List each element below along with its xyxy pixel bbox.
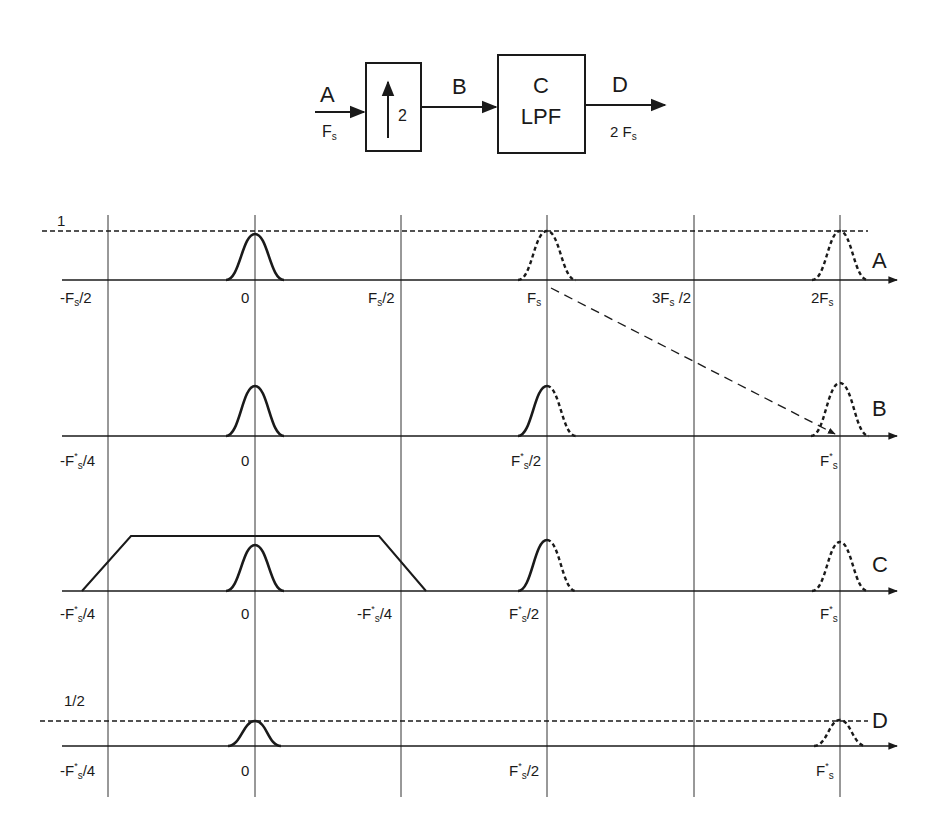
- amplitude-one-label: 1: [57, 212, 65, 229]
- tick-c-2: -F*s/4: [357, 604, 392, 624]
- tick-c-4: F*s: [820, 604, 838, 624]
- tick-b-1: 0: [241, 452, 249, 469]
- tick-d-1: 0: [241, 762, 249, 779]
- block-diagram: A Fs 2 B C LPF D 2 Fs: [315, 55, 665, 153]
- axis-c-label: C: [872, 552, 888, 577]
- tick-b-3: F*s: [820, 451, 838, 471]
- mid-label: B: [452, 74, 467, 99]
- tick-d-0: -F*s/4: [60, 761, 95, 781]
- axis-b-label: B: [872, 396, 887, 421]
- half-lobe-dashed: [547, 386, 576, 436]
- tick-a-0: -Fs/2: [60, 289, 92, 308]
- tick-c-3: F*s/2: [509, 604, 539, 624]
- tick-c-1: 0: [241, 605, 249, 622]
- tick-a-4: 3Fs /2: [652, 289, 691, 308]
- upsampling-spectrum-diagram: A Fs 2 B C LPF D 2 Fs 1 A: [0, 0, 936, 827]
- half-lobe-solid: [518, 540, 547, 591]
- output-label: D: [612, 72, 628, 97]
- tick-a-2: Fs/2: [368, 289, 395, 308]
- tick-a-5: 2Fs: [811, 289, 834, 308]
- half-lobe-dashed: [547, 540, 576, 591]
- tick-c-0: -F*s/4: [60, 604, 95, 624]
- tick-a-1: 0: [241, 289, 249, 306]
- input-rate: Fs: [322, 123, 337, 142]
- half-lobe-solid: [518, 386, 547, 436]
- filter-letter: C: [533, 73, 549, 98]
- upsampler-factor: 2: [398, 107, 407, 124]
- upsampler-box: [366, 63, 421, 151]
- spectrum-row-b: B -F*s/4 0 F*s/2 F*s: [60, 383, 897, 471]
- relabel-arrow: [551, 288, 835, 434]
- tick-a-3: Fs: [527, 289, 541, 308]
- tick-d-2: F*s/2: [509, 761, 539, 781]
- tick-b-2: F*s/2: [511, 451, 541, 471]
- spectrum-row-a: 1 A -Fs/2 0 Fs/2 Fs 3Fs /2 2Fs: [42, 212, 897, 308]
- filter-label: LPF: [521, 104, 561, 129]
- axis-a-label: A: [872, 248, 887, 273]
- tick-d-3: F*s: [816, 761, 834, 781]
- spectrum-row-c: C -F*s/4 0 -F*s/4 F*s/2 F*s: [60, 536, 897, 624]
- axis-d-label: D: [872, 708, 888, 733]
- spectrum-row-d: 1/2 D -F*s/4 0 F*s/2 F*s: [40, 692, 897, 781]
- frequency-grid: [108, 215, 840, 797]
- output-rate: 2 Fs: [610, 123, 637, 142]
- amplitude-half-label: 1/2: [64, 692, 85, 709]
- tick-b-0: -F*s/4: [60, 451, 95, 471]
- input-label: A: [320, 82, 335, 107]
